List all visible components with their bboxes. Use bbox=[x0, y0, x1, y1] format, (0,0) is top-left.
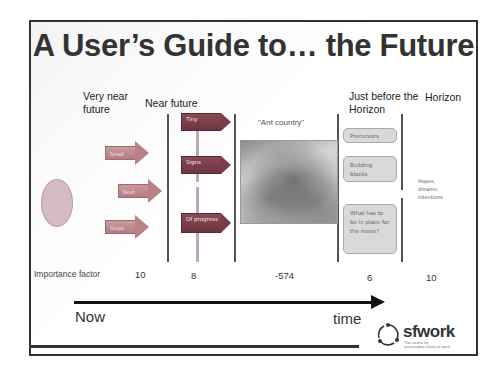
now-oval bbox=[41, 179, 73, 227]
sign-label: Tiny bbox=[181, 113, 221, 131]
bottom-rule bbox=[31, 345, 359, 348]
arrow-steps: Steps bbox=[105, 215, 149, 239]
arrow-small: Small bbox=[105, 141, 149, 165]
arrow-head-icon bbox=[148, 179, 162, 203]
box-building-blocks: Building blocks bbox=[343, 156, 397, 182]
divider-4b bbox=[401, 198, 403, 262]
divider-4a bbox=[401, 114, 403, 190]
heading-near-future: Near future bbox=[145, 97, 198, 110]
timeline-arrowhead-icon bbox=[371, 295, 385, 309]
arrow-head-icon bbox=[135, 215, 149, 239]
sign-tip-icon bbox=[221, 156, 231, 174]
importance-ant-country: -574 bbox=[275, 270, 294, 281]
ant-country-caption: "Ant country" bbox=[258, 118, 304, 127]
importance-very-near: 10 bbox=[135, 269, 146, 280]
timeline-time-label: time bbox=[333, 310, 361, 327]
sfwork-logo-text: sfwork bbox=[403, 322, 455, 342]
sfwork-tagline: The centre for sustainable future at wor… bbox=[404, 341, 450, 349]
arrow-label: Next bbox=[118, 184, 148, 198]
arrow-next: Next bbox=[118, 179, 162, 203]
heading-horizon: Horizon bbox=[425, 91, 461, 104]
heading-line: Very near bbox=[83, 90, 128, 103]
divider-1 bbox=[167, 114, 169, 262]
sign-signs: Signs bbox=[181, 156, 231, 174]
sign-tip-icon bbox=[221, 213, 231, 233]
horizon-hopes-text: Hopes, dreams, intentions bbox=[418, 177, 448, 201]
heading-very-near-future: Very near future bbox=[83, 90, 128, 116]
importance-near: 8 bbox=[191, 270, 196, 281]
box-precursors: Precursors bbox=[343, 128, 397, 143]
timeline-arrow bbox=[74, 301, 374, 304]
sign-tip-icon bbox=[221, 113, 231, 131]
sign-tiny: Tiny bbox=[181, 113, 231, 131]
arrow-label: Small bbox=[105, 146, 135, 160]
divider-2 bbox=[234, 114, 236, 262]
heading-line: Just before the bbox=[349, 90, 418, 103]
importance-horizon: 10 bbox=[426, 272, 437, 283]
sfwork-logo-icon bbox=[375, 322, 401, 348]
sign-label: Of progress bbox=[181, 213, 221, 233]
importance-just-before: 6 bbox=[367, 272, 372, 283]
heading-just-before-horizon: Just before the Horizon bbox=[349, 90, 418, 116]
slide: A User’s Guide to… the Future Very near … bbox=[29, 20, 478, 356]
box-what-has-to-be-in-place: What has to be in place for the move? bbox=[343, 204, 397, 254]
ant-photo bbox=[240, 140, 338, 224]
sign-label: Signs bbox=[181, 156, 221, 174]
timeline-now-label: Now bbox=[75, 308, 105, 325]
importance-label: Importance factor bbox=[34, 269, 100, 279]
tagline-line: sustainable future at work bbox=[404, 345, 450, 349]
arrow-head-icon bbox=[135, 141, 149, 165]
heading-line: Horizon bbox=[349, 103, 418, 116]
arrow-label: Steps bbox=[105, 220, 135, 234]
heading-line: future bbox=[83, 103, 128, 116]
sign-of-progress: Of progress bbox=[181, 213, 231, 233]
slide-title: A User’s Guide to… the Future bbox=[31, 28, 476, 64]
